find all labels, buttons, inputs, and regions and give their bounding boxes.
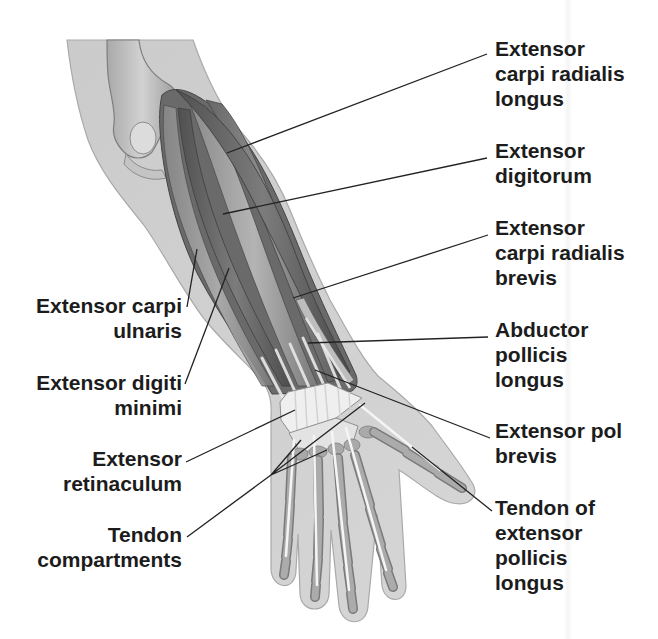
- label-line: pollicis: [495, 342, 588, 367]
- label-line: digitorum: [495, 163, 592, 188]
- label-line: minimi: [36, 395, 182, 420]
- leader-line-extensor-carpi-radialis-brevis: [293, 235, 488, 298]
- label-line: Extensor pol: [495, 418, 622, 443]
- label-tendon-compartments: Tendon compartments: [37, 522, 182, 572]
- label-line: Extensor: [495, 138, 592, 163]
- label-extensor-retinaculum: Extensor retinaculum: [63, 446, 182, 496]
- label-line: extensor: [495, 520, 595, 545]
- label-line: longus: [495, 86, 625, 111]
- label-extensor-carpi-ulnaris: Extensor carpi ulnaris: [36, 293, 182, 343]
- label-line: Tendon of: [495, 495, 595, 520]
- label-line: pollicis: [495, 545, 595, 570]
- anatomy-diagram: Extensor carpi radialis longus Extensor …: [0, 0, 658, 639]
- label-abductor-pollicis-longus: Abductor pollicis longus: [495, 317, 588, 392]
- label-line: ulnaris: [36, 318, 182, 343]
- label-line: Extensor: [495, 215, 625, 240]
- label-line: Extensor: [63, 446, 182, 471]
- label-extensor-digitorum: Extensor digitorum: [495, 138, 592, 188]
- label-line: carpi radialis: [495, 61, 625, 86]
- label-line: compartments: [37, 547, 182, 572]
- label-line: Tendon: [37, 522, 182, 547]
- label-line: Extensor digiti: [36, 370, 182, 395]
- label-line: Extensor carpi: [36, 293, 182, 318]
- label-extensor-carpi-radialis-longus: Extensor carpi radialis longus: [495, 36, 625, 111]
- label-tendon-of-extensor-pollicis-longus: Tendon of extensor pollicis longus: [495, 495, 595, 595]
- label-line: carpi radialis: [495, 240, 625, 265]
- label-extensor-digiti-minimi: Extensor digiti minimi: [36, 370, 182, 420]
- label-extensor-carpi-radialis-brevis: Extensor carpi radialis brevis: [495, 215, 625, 290]
- label-extensor-pol-brevis: Extensor pol brevis: [495, 418, 622, 468]
- label-line: Abductor: [495, 317, 588, 342]
- label-line: longus: [495, 367, 588, 392]
- label-line: retinaculum: [63, 471, 182, 496]
- label-line: longus: [495, 570, 595, 595]
- label-line: Extensor: [495, 36, 625, 61]
- label-line: brevis: [495, 443, 622, 468]
- capitulum-bone: [130, 122, 156, 154]
- leader-line-extensor-carpi-radialis-longus: [227, 54, 487, 153]
- label-line: brevis: [495, 265, 625, 290]
